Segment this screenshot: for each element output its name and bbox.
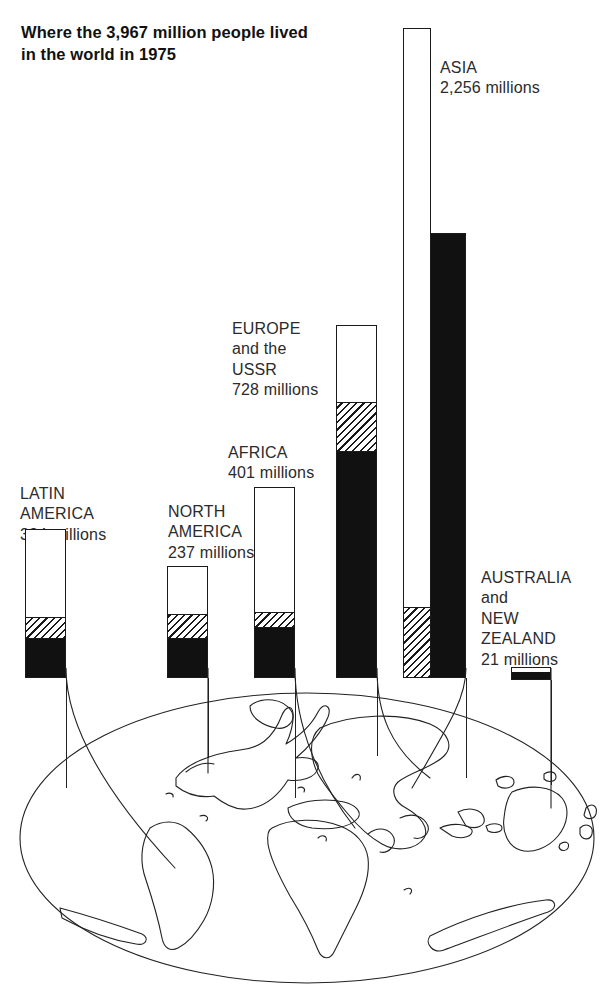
bar-segment-hatched	[337, 402, 376, 451]
bar-segment-dotted	[168, 567, 207, 614]
bar-label-asia: ASIA 2,256 millions	[440, 58, 540, 99]
bar-segment-dotted	[404, 29, 430, 607]
bar-segment-hatched	[168, 614, 207, 638]
bar-segment-hatched	[26, 617, 65, 638]
bar-europe-ussr	[336, 325, 377, 678]
bar-asia-dotted	[403, 28, 431, 678]
leader-line-latin-america-inner	[66, 668, 175, 868]
bar-label-australia-nz: AUSTRALIA and NEW ZEALAND 21 millions	[481, 568, 571, 670]
map-detail-madagascar-2	[404, 888, 412, 894]
bar-north-america	[167, 566, 208, 678]
bar-segment-dotted	[255, 488, 294, 612]
country-new-zealand-south	[580, 825, 592, 839]
island-tasmania	[559, 842, 569, 850]
bar-segment-hatched	[255, 612, 294, 627]
bar-label-north-america: NORTH AMERICA 237 millions	[168, 502, 254, 563]
bar-segment-solid	[337, 451, 376, 677]
bar-africa	[254, 487, 295, 678]
island-sumatra	[440, 824, 472, 837]
region-india	[400, 815, 428, 838]
bar-segment-hatched	[404, 607, 430, 677]
map-detail-scandinavia	[352, 774, 360, 780]
globe-outline	[20, 693, 594, 983]
bar-segment-dotted	[26, 530, 65, 617]
continent-north-america	[176, 706, 329, 809]
greenland-edge	[186, 763, 214, 772]
island-small-north	[544, 772, 556, 782]
page-title: Where the 3,967 million people lived in …	[21, 22, 421, 66]
infographic-page: Where the 3,967 million people lived in …	[0, 0, 614, 985]
continent-south-america	[142, 822, 214, 950]
bar-segment-dotted	[337, 326, 376, 402]
map-detail-andes	[200, 815, 208, 821]
continent-africa	[268, 820, 369, 958]
region-arabia	[368, 829, 394, 852]
bar-segment-solid	[431, 234, 465, 677]
country-new-zealand-north	[584, 805, 596, 819]
bar-asia-solid	[430, 233, 466, 678]
leader-line-africa-inner	[295, 668, 355, 828]
bar-label-europe-ussr: EUROPE and the USSR 728 millions	[232, 319, 318, 401]
map-detail-caribbean	[166, 793, 173, 797]
map-detail-britain	[298, 787, 305, 792]
bar-latin-america	[25, 529, 66, 678]
island-java	[486, 824, 502, 833]
leader-line-europe-inner	[377, 668, 430, 778]
world-map	[0, 668, 614, 985]
island-philippines	[496, 776, 514, 788]
continent-australia	[504, 787, 567, 851]
continent-antarctica-west	[60, 908, 146, 944]
bar-label-africa: AFRICA 401 millions	[228, 443, 314, 484]
map-detail-madagascar	[318, 836, 326, 841]
continent-greenland	[250, 700, 293, 729]
